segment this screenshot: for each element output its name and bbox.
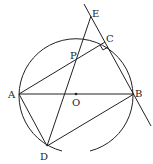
label-b: B xyxy=(135,88,142,99)
segment-ac xyxy=(19,42,105,94)
label-p: P xyxy=(70,50,77,61)
center-point-o xyxy=(75,93,78,96)
segment-ad xyxy=(19,94,47,146)
geometry-diagram: A B C D E O P xyxy=(0,0,153,164)
label-a: A xyxy=(7,89,16,100)
label-o: O xyxy=(72,97,80,108)
segment-db xyxy=(47,94,134,146)
segment-de xyxy=(47,16,91,146)
label-d: D xyxy=(40,151,48,162)
diagram-canvas: A B C D E O P xyxy=(0,0,153,164)
label-c: C xyxy=(106,33,114,44)
label-e: E xyxy=(92,8,99,19)
line-bce xyxy=(84,4,151,126)
